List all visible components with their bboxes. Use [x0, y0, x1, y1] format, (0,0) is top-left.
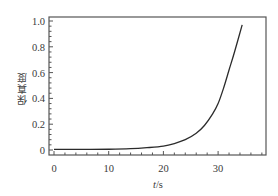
y-tick-label: 0.6: [32, 68, 45, 79]
fidelity-chart: 0102030 00.20.40.60.81.0 t/s: [0, 0, 278, 196]
plot-frame: [49, 17, 266, 155]
x-tick-label: 30: [213, 163, 224, 174]
y-tick-label: 0.4: [32, 93, 46, 104]
y-tick-label: 0.2: [32, 119, 45, 130]
x-tick-label: 20: [158, 163, 169, 174]
x-tick-label: 10: [103, 163, 114, 174]
x-axis-ticks: [54, 151, 262, 155]
x-axis-title-unit: /s: [156, 179, 163, 190]
fidelity-curve: [54, 25, 242, 149]
x-axis-title: t/s: [153, 179, 163, 190]
y-axis-tick-labels: 00.20.40.60.81.0: [32, 16, 46, 156]
y-tick-label: 0: [40, 145, 45, 156]
y-tick-label: 0.8: [32, 42, 45, 53]
x-tick-label: 0: [51, 163, 56, 174]
y-tick-label: 1.0: [32, 16, 45, 27]
y-axis-title: 保真度: [15, 72, 29, 105]
x-axis-tick-labels: 0102030: [51, 163, 223, 174]
